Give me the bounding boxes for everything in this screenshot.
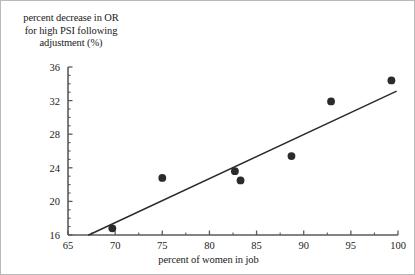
x-tick-label-80: 80 <box>204 240 215 251</box>
x-tick-label-85: 85 <box>251 240 262 251</box>
regression-line <box>89 91 396 235</box>
x-tick-label-70: 70 <box>110 240 121 251</box>
tick-labels: 65707580859095100162024283236 <box>50 62 406 251</box>
chart-figure: percent decrease in OR for high PSI foll… <box>0 0 415 275</box>
tick-marks <box>68 67 398 235</box>
y-tick-label-24: 24 <box>50 163 61 174</box>
y-tick-label-16: 16 <box>50 230 61 241</box>
data-point-0 <box>108 224 116 232</box>
regression-line-path <box>89 91 396 235</box>
axes <box>68 67 398 235</box>
x-axis-label: percent of women in job <box>1 254 415 265</box>
x-tick-label-90: 90 <box>298 240 309 251</box>
data-point-1 <box>158 174 166 182</box>
x-tick-label-75: 75 <box>157 240 168 251</box>
y-tick-label-32: 32 <box>50 96 61 107</box>
x-tick-label-65: 65 <box>63 240 74 251</box>
scatter-plot: 65707580859095100162024283236 <box>1 1 415 275</box>
x-tick-label-95: 95 <box>346 240 357 251</box>
data-point-6 <box>388 77 396 85</box>
data-point-5 <box>327 98 335 106</box>
data-point-4 <box>288 152 296 160</box>
data-point-3 <box>237 177 245 185</box>
y-tick-label-36: 36 <box>50 62 61 73</box>
y-tick-label-28: 28 <box>50 129 61 140</box>
x-tick-label-100: 100 <box>390 240 406 251</box>
data-point-2 <box>231 167 239 175</box>
data-points <box>108 77 395 233</box>
y-tick-label-20: 20 <box>50 196 61 207</box>
